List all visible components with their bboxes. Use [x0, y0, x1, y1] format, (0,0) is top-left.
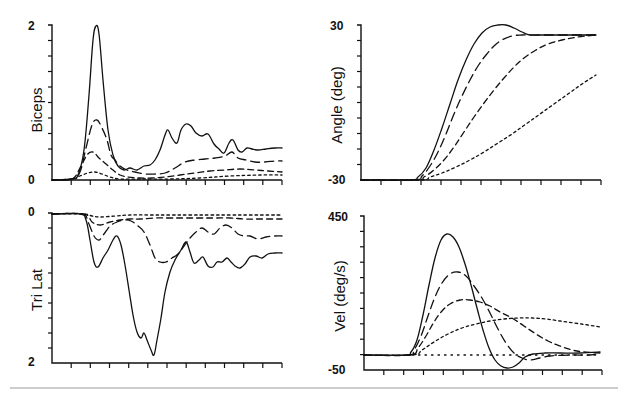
y-axis-label: Biceps: [28, 87, 45, 132]
panel-angle: 30 -30 Angle (deg): [328, 19, 601, 187]
series-condition-4: [364, 318, 600, 356]
series-condition-4: [52, 172, 282, 180]
y-tick-bottom: -30: [328, 173, 346, 187]
series-condition-1: [361, 25, 596, 181]
series-condition-3: [361, 35, 596, 180]
panel-biceps: 2 0 Biceps: [28, 19, 282, 187]
y-tick-bottom: 0: [28, 173, 35, 187]
axis-lines: [360, 216, 602, 370]
series-condition-1: [52, 214, 282, 356]
plot-lines: [361, 25, 596, 181]
plot-lines: [364, 234, 600, 368]
series-condition-2: [361, 35, 596, 180]
y-tick-top: 30: [330, 19, 344, 33]
y-tick-bottom: 2: [28, 355, 35, 369]
y-axis-label: Tri Lat: [28, 268, 45, 311]
y-tick-top: 450: [328, 210, 348, 224]
y-axis-label: Angle (deg): [328, 66, 345, 144]
y-tick-top: 0: [28, 205, 35, 219]
panel-tri-lat: 0 2 Tri Lat: [28, 205, 282, 369]
series-condition-1: [52, 25, 282, 180]
y-tick-top: 2: [28, 19, 35, 33]
axes: [360, 216, 602, 375]
figure: 2 0 Biceps 30 -30 Angle (deg) 0 2 Tri La…: [0, 0, 624, 398]
y-tick-bottom: -50: [328, 363, 346, 377]
plot-lines: [52, 213, 282, 355]
axis-lines: [357, 25, 601, 180]
axes: [357, 25, 601, 185]
panel-vel: 450 -50 Vel (deg/s): [328, 210, 602, 377]
series-condition-3: [52, 152, 282, 180]
plot-lines: [52, 25, 282, 180]
series-condition-2: [364, 272, 600, 360]
y-axis-label: Vel (deg/s): [331, 260, 348, 332]
series-condition-4: [361, 75, 596, 180]
